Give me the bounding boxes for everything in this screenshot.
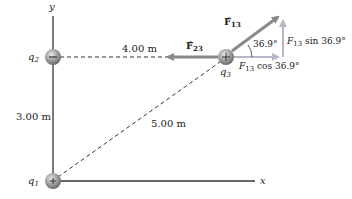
f23-label: ⃗F23 bbox=[192, 41, 203, 52]
angle-label: 36.9° bbox=[253, 40, 278, 49]
distance-q1-q3: 5.00 m bbox=[151, 119, 186, 129]
q1-q3-dashed-line bbox=[58, 62, 220, 177]
q1-label: q1 bbox=[28, 176, 39, 188]
f13-label: ⃗F13 bbox=[230, 17, 241, 28]
diagram-canvas bbox=[0, 0, 352, 199]
q3-label: q3 bbox=[220, 67, 231, 79]
f13-sin-label: F13 sin 36.9° bbox=[287, 37, 346, 48]
distance-q1-q2: 3.00 m bbox=[16, 112, 51, 122]
angle-arc bbox=[248, 45, 252, 57]
distance-q2-q3: 4.00 m bbox=[122, 44, 157, 54]
q2-label: q2 bbox=[28, 52, 39, 64]
x-axis-label: x bbox=[260, 176, 266, 186]
y-axis-label: y bbox=[49, 2, 55, 12]
f13-cos-label: F13 cos 36.9° bbox=[239, 62, 300, 73]
